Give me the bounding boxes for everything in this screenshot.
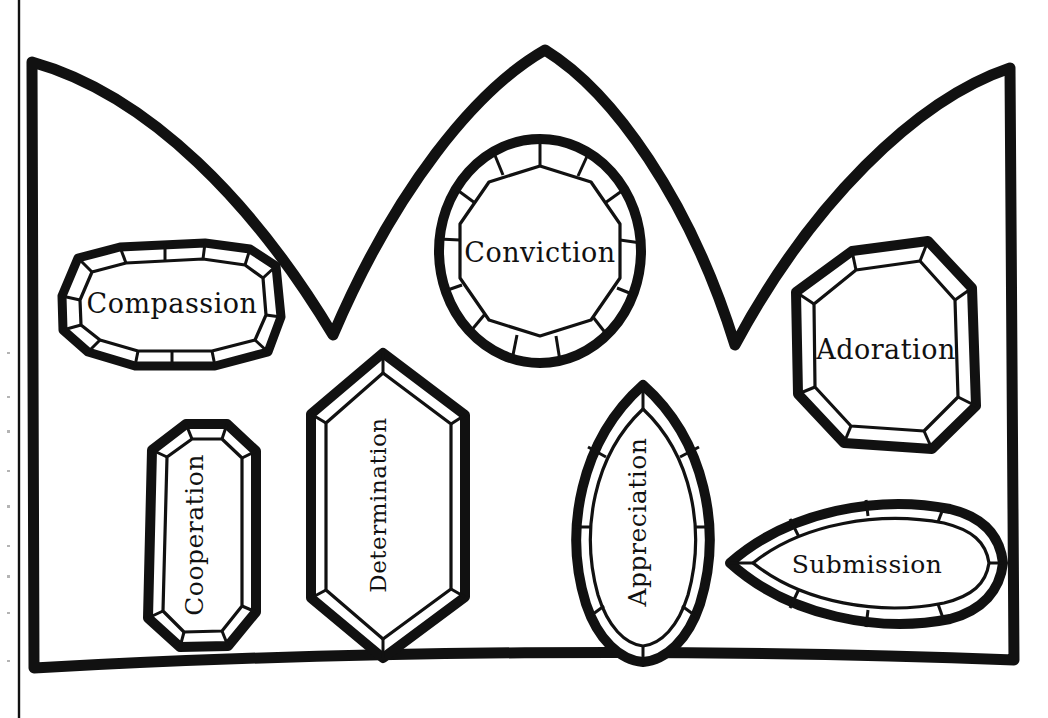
gem-compassion-label: Compassion (87, 288, 258, 319)
gem-adoration-label: Adoration (815, 334, 956, 365)
gem-compassion[interactable]: Compassion (62, 243, 281, 366)
gem-determination-label: Determination (365, 417, 391, 592)
gem-conviction[interactable]: Conviction (439, 139, 641, 363)
coloring-page-canvas: Compassion Conviction (0, 0, 1048, 718)
gem-cooperation[interactable]: Cooperation (148, 424, 256, 647)
gem-determination[interactable]: Determination (311, 353, 465, 658)
gem-appreciation-label: Appreciation (623, 438, 652, 608)
gem-conviction-label: Conviction (464, 237, 615, 268)
gem-submission-label: Submission (792, 550, 943, 579)
gem-adoration[interactable]: Adoration (796, 241, 976, 449)
gem-cooperation-label: Cooperation (180, 454, 209, 616)
crown-illustration: Compassion Conviction (0, 0, 1048, 718)
